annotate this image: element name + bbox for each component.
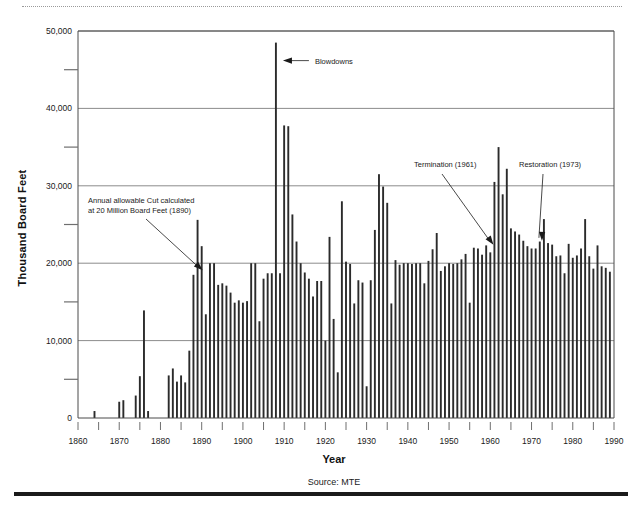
bar <box>374 230 376 418</box>
bar <box>588 256 590 418</box>
bar <box>502 194 504 418</box>
bar <box>547 243 549 418</box>
x-tick-label: 1870 <box>110 436 129 446</box>
bar <box>597 245 599 418</box>
annotation-arrow-blowdowns <box>283 57 292 63</box>
bar <box>283 125 285 418</box>
bar <box>444 266 446 418</box>
bar <box>176 382 178 418</box>
bar <box>230 293 232 418</box>
annotation-label-blowdowns: Blowdowns <box>315 57 353 66</box>
bar <box>559 255 561 418</box>
bar <box>193 275 195 418</box>
bar <box>605 268 607 418</box>
bar <box>543 219 545 418</box>
bar <box>564 273 566 418</box>
annotation-leader-restoration <box>539 174 543 238</box>
bar <box>473 248 475 418</box>
bar <box>539 242 541 418</box>
bar <box>456 263 458 418</box>
bar <box>147 411 149 418</box>
bar <box>238 300 240 418</box>
bar <box>246 301 248 418</box>
bar <box>489 252 491 418</box>
bar <box>263 279 265 418</box>
x-tick-label: 1880 <box>151 436 170 446</box>
y-axis-title: Thousand Board Feet <box>16 169 28 286</box>
bar <box>390 303 392 418</box>
bar <box>366 386 368 418</box>
bar <box>514 231 516 418</box>
bar <box>242 303 244 418</box>
annotation-label-allowable-cut-line2: at 20 Million Board Feet (1890) <box>88 206 191 215</box>
bar <box>258 321 260 418</box>
bar <box>275 43 277 418</box>
bar <box>329 237 331 418</box>
bar <box>407 263 409 418</box>
y-tick-label: 0 <box>67 413 72 423</box>
bar <box>168 375 170 418</box>
bar <box>432 249 434 418</box>
bar <box>94 411 96 418</box>
bar <box>217 285 219 418</box>
y-tick-label: 30,000 <box>46 181 72 191</box>
bar <box>395 260 397 418</box>
bar <box>213 263 215 418</box>
bar <box>221 283 223 418</box>
x-tick-label: 1890 <box>192 436 211 446</box>
bar <box>555 256 557 418</box>
bar <box>518 235 520 418</box>
bar <box>592 269 594 418</box>
bar <box>188 351 190 418</box>
bar <box>341 201 343 418</box>
bar <box>411 264 413 418</box>
x-tick-label: 1970 <box>522 436 541 446</box>
bar <box>370 280 372 418</box>
bar <box>118 402 120 418</box>
bar <box>143 310 145 418</box>
bar <box>415 263 417 418</box>
x-tick-label: 1920 <box>316 436 335 446</box>
x-tick-labels-group: 1860187018801890190019101920193019401950… <box>69 436 624 446</box>
bar <box>308 279 310 418</box>
bar <box>526 246 528 418</box>
bar <box>469 303 471 418</box>
bar <box>403 263 405 418</box>
bar <box>234 303 236 418</box>
bar-chart-svg: 010,00020,00030,00040,00050,000 18601870… <box>0 0 642 509</box>
x-tick-label: 1900 <box>233 436 252 446</box>
bar <box>477 248 479 418</box>
bar <box>209 263 211 418</box>
bar <box>345 262 347 418</box>
bar <box>304 272 306 418</box>
bar <box>498 147 500 418</box>
bar <box>568 244 570 418</box>
bar <box>333 319 335 418</box>
y-tick-label: 20,000 <box>46 258 72 268</box>
bar <box>609 272 611 418</box>
annotation-label-restoration: Restoration (1973) <box>519 160 582 169</box>
bar <box>428 261 430 418</box>
bar <box>485 245 487 418</box>
bar <box>225 286 227 418</box>
bar <box>320 281 322 418</box>
bar <box>440 271 442 418</box>
y-tick-label: 50,000 <box>46 26 72 36</box>
bar <box>296 242 298 418</box>
bar <box>362 283 364 418</box>
x-tick-label: 1960 <box>481 436 500 446</box>
bar <box>531 248 533 418</box>
bar <box>254 263 256 418</box>
bar <box>419 263 421 418</box>
bar <box>576 255 578 418</box>
bar <box>357 280 359 418</box>
bar <box>180 375 182 418</box>
y-tick-label: 10,000 <box>46 336 72 346</box>
bar <box>312 296 314 418</box>
bar <box>506 169 508 418</box>
bar <box>205 314 207 418</box>
annotation-label-allowable-cut-line1: Annual allowable Cut calculated <box>88 196 194 205</box>
x-tick-label: 1940 <box>398 436 417 446</box>
bar <box>300 263 302 418</box>
bar <box>378 174 380 418</box>
